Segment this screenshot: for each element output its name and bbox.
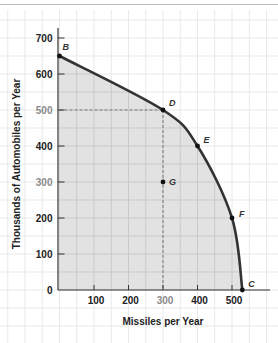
point-f-label: F	[239, 209, 245, 219]
y-tick-label: 100	[36, 249, 53, 260]
chart-canvas: BDEFGC 010020030040050060070010020030040…	[0, 0, 278, 343]
point-b-marker	[57, 54, 62, 59]
y-tick-label: 300	[36, 177, 53, 188]
x-tick-label: 500	[226, 295, 243, 306]
y-tick-label: 600	[36, 69, 53, 80]
point-e-label: E	[204, 135, 211, 145]
x-tick-label: 300	[157, 295, 174, 306]
y-axis-title: Thousands of Automobiles per Year	[11, 79, 22, 250]
x-tick-label: 100	[88, 295, 105, 306]
x-tick-label: 200	[122, 295, 139, 306]
ppf-chart: BDEFGC 010020030040050060070010020030040…	[0, 0, 278, 343]
point-f-marker	[230, 216, 235, 221]
x-axis-title: Missiles per Year	[123, 316, 204, 327]
point-c-label: C	[248, 279, 255, 289]
y-tick-label: 0	[47, 285, 53, 296]
x-tick-label: 400	[191, 295, 208, 306]
point-c-marker	[240, 288, 245, 293]
point-d-label: D	[169, 98, 176, 108]
y-tick-label: 700	[36, 33, 53, 44]
point-b-label: B	[63, 42, 70, 52]
y-tick-label: 500	[36, 105, 53, 116]
y-tick-label: 400	[36, 141, 53, 152]
y-tick-label: 200	[36, 213, 53, 224]
point-g-label: G	[169, 177, 176, 187]
point-g-marker	[161, 180, 166, 185]
point-e-marker	[195, 144, 200, 149]
point-d-marker	[161, 108, 166, 113]
